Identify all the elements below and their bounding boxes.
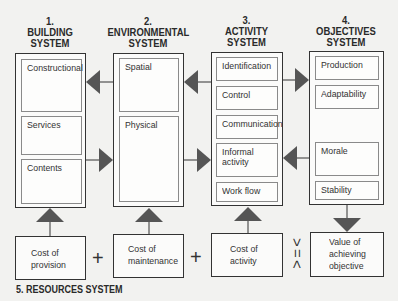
constructional-box: Constructional [21, 59, 82, 112]
item-label: Work flow [222, 186, 260, 196]
arrow-up-icon [234, 207, 262, 221]
value-label: objective [329, 260, 364, 271]
item-label: Services [27, 120, 61, 130]
cost-label: activity [230, 255, 257, 266]
work-flow-box: Work flow [216, 182, 278, 202]
item-label: Spatial [125, 62, 152, 72]
item-label: activity [222, 157, 249, 167]
contents-box: Contents [21, 159, 82, 204]
arrow-right-icon [295, 68, 309, 92]
item-label: Morale [321, 146, 348, 156]
plus-operator: + [190, 247, 202, 267]
control-box: Control [216, 86, 278, 110]
spatial-box: Spatial [119, 58, 179, 112]
arrow-left-icon [283, 146, 297, 170]
physical-box: Physical [119, 116, 179, 202]
cost-of-provision-box: Cost of provision [15, 236, 86, 280]
cost-label: maintenance [128, 255, 178, 266]
arrow-down-icon [333, 218, 361, 232]
production-box: Production [315, 56, 379, 80]
environmental-system-title: 2. ENVIRONMENTAL SYSTEM [108, 16, 189, 49]
cost-label: provision [31, 259, 66, 270]
stability-box: Stability [315, 181, 379, 200]
column-subtitle: SYSTEM [108, 38, 189, 49]
arrow-up-icon [135, 208, 163, 222]
item-label: Physical [125, 120, 158, 130]
item-label: Control [222, 90, 250, 100]
cost-label: Cost of [128, 243, 156, 254]
objectives-system-title: 4. OBJECTIVES SYSTEM [309, 15, 383, 48]
plus-operator: + [92, 248, 104, 268]
column-subtitle: SYSTEM [309, 37, 383, 48]
cost-label: Cost of [31, 247, 59, 258]
building-system-title: 1. BUILDING SYSTEM [19, 16, 82, 49]
less-than-symbol: < [292, 258, 303, 272]
value-of-objective-box: Value of achieving objective [310, 232, 384, 277]
communication-box: Communication [216, 115, 278, 139]
item-label: Adaptability [321, 89, 366, 99]
value-label: achieving [329, 248, 366, 259]
item-label: Production [321, 60, 363, 70]
cost-of-maintenance-box: Cost of maintenance [113, 234, 184, 278]
item-label: Communication [222, 119, 283, 129]
column-subtitle: SYSTEM [19, 38, 82, 49]
item-label: Constructional [27, 63, 83, 73]
informal-activity-box: Informalactivity [216, 143, 278, 177]
arrow-right-icon [197, 148, 211, 172]
morale-box: Morale [315, 142, 379, 176]
arrow-left-icon [86, 70, 100, 94]
activity-system-title: 3. ACTIVITY SYSTEM [215, 15, 279, 48]
item-label: Stability [321, 185, 352, 195]
arrow-up-icon [36, 208, 64, 222]
item-label: Identification [222, 61, 271, 71]
services-box: Services [21, 116, 82, 155]
arrow-left-icon [184, 70, 198, 94]
comparison-operator: > = < [290, 237, 304, 270]
resources-system-title: 5. RESOURCES SYSTEM [16, 284, 123, 295]
column-subtitle: SYSTEM [215, 37, 279, 48]
identification-box: Identification [216, 57, 278, 81]
cost-label: Cost of [230, 243, 258, 254]
value-label: Value of [329, 236, 360, 247]
arrow-right-icon [99, 148, 113, 172]
adaptability-box: Adaptability [315, 85, 379, 109]
cost-of-activity-box: Cost of activity [211, 233, 283, 277]
item-label: Contents [27, 163, 62, 173]
